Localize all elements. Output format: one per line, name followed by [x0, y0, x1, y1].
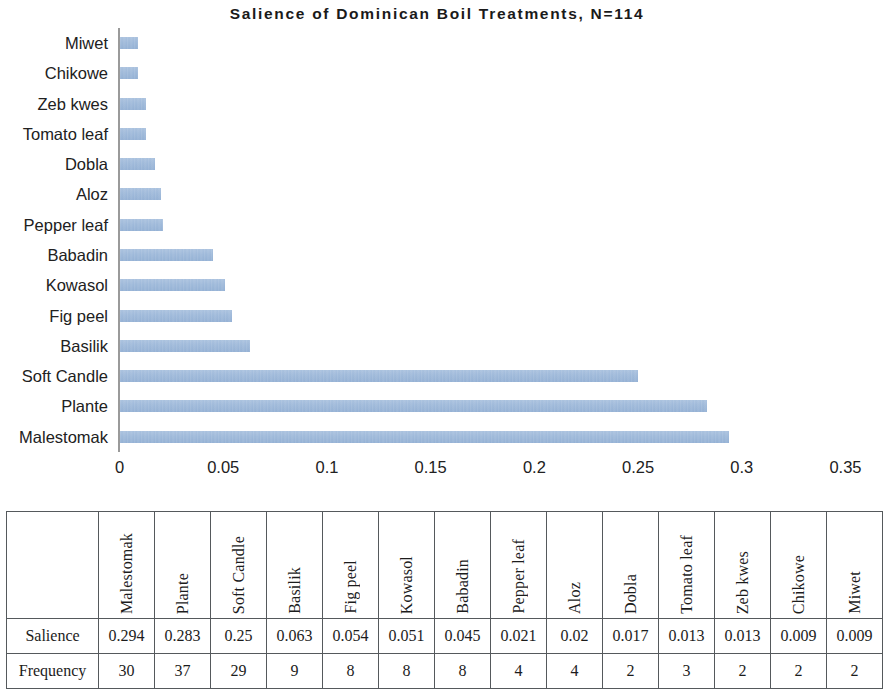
- chart-plot-area: MiwetChikoweZeb kwesTomato leafDoblaAloz…: [0, 28, 874, 452]
- table-cell: 8: [435, 654, 491, 689]
- table-row: Frequency30372998884423222: [7, 654, 883, 689]
- bar-row: Malestomak: [0, 422, 874, 452]
- bar-category-label: Aloz: [76, 179, 108, 209]
- table-column-header: Tomato leaf: [659, 512, 715, 619]
- table-cell: 0.051: [379, 619, 435, 654]
- bar-row: Chikowe: [0, 58, 874, 88]
- bar-row: Tomato leaf: [0, 119, 874, 149]
- bar-row: Zeb kwes: [0, 89, 874, 119]
- table-cell: 0.283: [155, 619, 211, 654]
- table-corner-cell: [7, 512, 99, 619]
- bar: [120, 37, 139, 49]
- table-cell: 0.02: [547, 619, 603, 654]
- x-axis: 00.050.10.150.20.250.30.35: [0, 452, 874, 492]
- table-cell: 2: [715, 654, 771, 689]
- bar-row: Kowasol: [0, 270, 874, 300]
- bar-row: Basilik: [0, 331, 874, 361]
- table-cell: 0.294: [99, 619, 155, 654]
- bar-category-label: Basilik: [60, 331, 108, 361]
- table-column-header: Miwet: [827, 512, 883, 619]
- bar: [120, 98, 147, 110]
- table-cell: 0.009: [827, 619, 883, 654]
- table-column-header-label: Zeb kwes: [735, 551, 751, 614]
- table-column-header-label: Kowasol: [399, 556, 415, 614]
- table-column-header: Babadin: [435, 512, 491, 619]
- table-column-header: Kowasol: [379, 512, 435, 619]
- bar-row: Babadin: [0, 240, 874, 270]
- table-column-header: Aloz: [547, 512, 603, 619]
- table-row: Salience0.2940.2830.250.0630.0540.0510.0…: [7, 619, 883, 654]
- bar-row: Plante: [0, 391, 874, 421]
- bar: [120, 128, 147, 140]
- bar-category-label: Malestomak: [19, 422, 108, 452]
- x-axis-tick-label: 0: [115, 458, 124, 477]
- table-cell: 8: [323, 654, 379, 689]
- table-column-header: Plante: [155, 512, 211, 619]
- bar: [120, 158, 155, 170]
- x-axis-tick-label: 0.35: [829, 458, 861, 477]
- x-axis-tick-label: 0.2: [523, 458, 546, 477]
- bar-category-label: Zeb kwes: [37, 89, 108, 119]
- bar: [120, 67, 139, 79]
- table-column-header-label: Miwet: [847, 571, 863, 614]
- table-cell: 0.25: [211, 619, 267, 654]
- table-column-header-label: Tomato leaf: [679, 535, 695, 614]
- table-column-header: Chikowe: [771, 512, 827, 619]
- table-cell: 8: [379, 654, 435, 689]
- bar-category-label: Chikowe: [45, 58, 108, 88]
- table-header-row: MalestomakPlanteSoft CandleBasilikFig pe…: [7, 512, 883, 619]
- table-row-header: Frequency: [7, 654, 99, 689]
- table-cell: 2: [771, 654, 827, 689]
- salience-frequency-table-wrap: MalestomakPlanteSoft CandleBasilikFig pe…: [6, 511, 867, 689]
- table-cell: 0.017: [603, 619, 659, 654]
- table-column-header-label: Chikowe: [791, 555, 807, 614]
- bar: [120, 340, 251, 352]
- table-cell: 2: [603, 654, 659, 689]
- table-cell: 0.013: [659, 619, 715, 654]
- bar-row: Soft Candle: [0, 361, 874, 391]
- bar-row: Aloz: [0, 179, 874, 209]
- table-column-header-label: Pepper leaf: [511, 539, 527, 614]
- table-cell: 30: [99, 654, 155, 689]
- table-cell: 9: [267, 654, 323, 689]
- bar-row: Pepper leaf: [0, 210, 874, 240]
- bar: [120, 219, 164, 231]
- bar-category-label: Soft Candle: [22, 361, 108, 391]
- bar-category-label: Kowasol: [46, 270, 108, 300]
- table-column-header: Zeb kwes: [715, 512, 771, 619]
- table-column-header-label: Babadin: [455, 559, 471, 614]
- table-cell: 0.054: [323, 619, 379, 654]
- table-column-header: Dobla: [603, 512, 659, 619]
- x-axis-tick-label: 0.25: [622, 458, 654, 477]
- bar-category-label: Pepper leaf: [24, 210, 108, 240]
- table-column-header: Pepper leaf: [491, 512, 547, 619]
- table-column-header: Basilik: [267, 512, 323, 619]
- bar-category-label: Dobla: [65, 149, 108, 179]
- x-axis-tick-label: 0.1: [315, 458, 338, 477]
- table-column-header: Soft Candle: [211, 512, 267, 619]
- chart-title: Salience of Dominican Boil Treatments, N…: [0, 5, 874, 23]
- x-axis-tick-label: 0.05: [207, 458, 239, 477]
- table-cell: 4: [491, 654, 547, 689]
- bar: [120, 279, 226, 291]
- bar-category-label: Fig peel: [49, 301, 108, 331]
- bar: [120, 370, 639, 382]
- table-cell: 0.013: [715, 619, 771, 654]
- bar: [120, 249, 213, 261]
- table-column-header-label: Plante: [175, 573, 191, 614]
- bar: [120, 431, 730, 443]
- table-column-header-label: Malestomak: [119, 533, 135, 614]
- table-cell: 29: [211, 654, 267, 689]
- x-axis-tick-label: 0.3: [730, 458, 753, 477]
- table-cell: 0.045: [435, 619, 491, 654]
- table-cell: 37: [155, 654, 211, 689]
- table-cell: 3: [659, 654, 715, 689]
- table-cell: 0.009: [771, 619, 827, 654]
- table-cell: 0.063: [267, 619, 323, 654]
- table-cell: 0.021: [491, 619, 547, 654]
- table-column-header-label: Soft Candle: [231, 536, 247, 614]
- table-cell: 4: [547, 654, 603, 689]
- salience-frequency-table: MalestomakPlanteSoft CandleBasilikFig pe…: [6, 511, 883, 689]
- bar: [120, 400, 707, 412]
- table-column-header: Malestomak: [99, 512, 155, 619]
